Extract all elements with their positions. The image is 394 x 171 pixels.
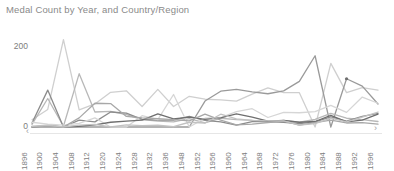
plot-area[interactable] xyxy=(0,26,394,134)
x-axis-tick: 1996 xyxy=(367,152,375,170)
x-axis-tick: 1928 xyxy=(131,152,139,170)
x-axis-tick: 1972 xyxy=(272,152,280,170)
page-title: Medal Count by Year, and Country/Region xyxy=(6,4,189,15)
x-axis-tick: 1908 xyxy=(68,152,76,170)
x-axis-tick: 1948 xyxy=(178,152,186,170)
x-axis-tick: 1952 xyxy=(194,152,202,170)
line-chart-visual[interactable]: Medal Count by Year, and Country/Region … xyxy=(0,0,394,171)
x-axis-tick: 1932 xyxy=(146,152,154,170)
series-line xyxy=(32,56,378,127)
x-axis-tick: 1904 xyxy=(52,152,60,170)
data-point-marker[interactable] xyxy=(345,77,348,80)
x-axis-tick: 1960 xyxy=(225,152,233,170)
x-axis-tick: 1912 xyxy=(83,152,91,170)
x-axis: 1896190019041908191219201924192819321936… xyxy=(0,134,394,171)
x-axis-tick: 1964 xyxy=(241,152,249,170)
x-axis-tick: 1968 xyxy=(256,152,264,170)
x-axis-tick: 1956 xyxy=(209,152,217,170)
x-axis-tick: 1900 xyxy=(36,152,44,170)
x-axis-tick: 1936 xyxy=(162,152,170,170)
x-axis-tick: 1984 xyxy=(319,152,327,170)
x-axis-tick: 1980 xyxy=(304,152,312,170)
x-axis-tick: 1920 xyxy=(99,152,107,170)
x-axis-tick: 1976 xyxy=(288,152,296,170)
x-axis-tick: 1924 xyxy=(115,152,123,170)
x-axis-tick: 1896 xyxy=(21,152,29,170)
chevron-right-icon[interactable]: › xyxy=(374,124,377,133)
x-axis-tick: 1992 xyxy=(351,152,359,170)
series-lines xyxy=(0,26,394,134)
x-axis-tick: 1988 xyxy=(335,152,343,170)
